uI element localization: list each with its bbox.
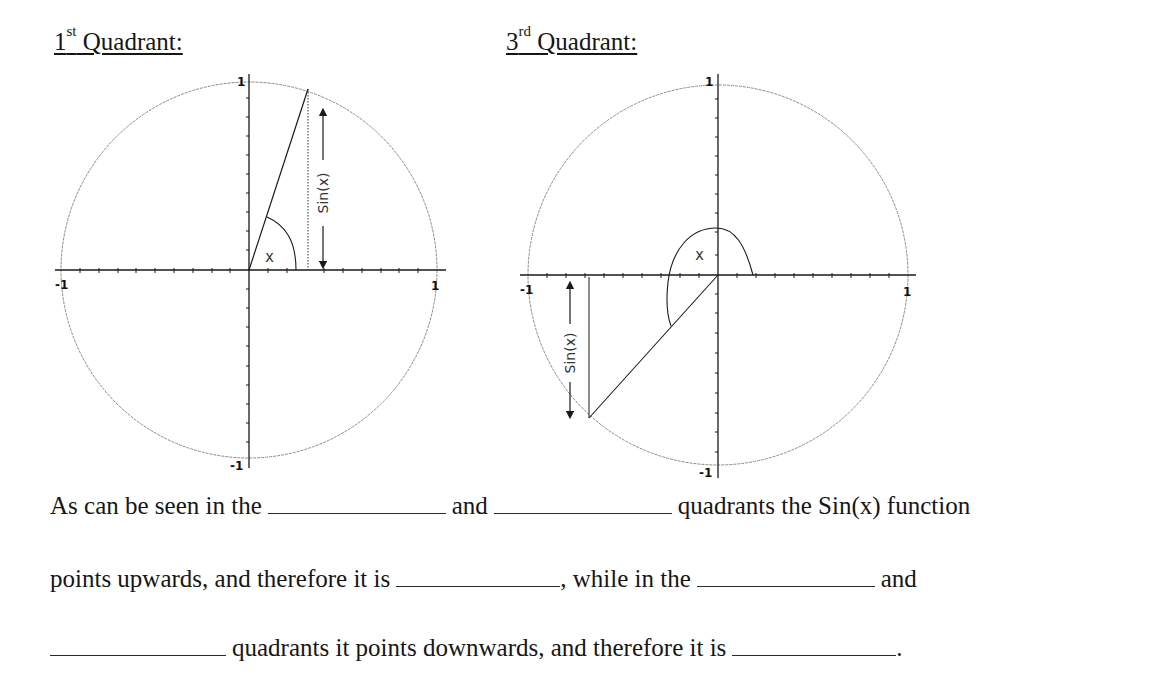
first-quadrant-diagram: 1 -1 -1 1 x Sin(x)	[55, 74, 446, 473]
unit-circle-diagrams: 1 -1 -1 1 x Sin(x)	[0, 0, 1149, 480]
angle-label: x	[265, 248, 274, 266]
angle-label: x	[695, 246, 704, 264]
text-segment: quadrants the Sin(x) function	[678, 492, 970, 519]
text-segment: points upwards, and therefore it is	[50, 565, 390, 592]
text-segment: and	[881, 565, 917, 592]
axis-label-left: -1	[55, 278, 68, 292]
radius-line	[589, 275, 718, 418]
sine-label: Sin(x)	[315, 173, 331, 214]
axis-label-top: 1	[705, 75, 713, 89]
text-segment: and	[452, 492, 488, 519]
sine-label: Sin(x)	[562, 333, 578, 374]
text-segment: quadrants it points downwards, and there…	[232, 634, 726, 661]
blank-quadrant-2[interactable]	[494, 491, 672, 514]
third-quadrant-diagram: 1 -1 -1 1 x Sin(x)	[520, 74, 916, 480]
axis-label-bottom: -1	[699, 466, 712, 480]
radius-line	[249, 89, 308, 270]
paragraph-line-3: quadrants it points downwards, and there…	[50, 632, 903, 664]
axis-label-top: 1	[237, 75, 245, 89]
axis-label-right: 1	[903, 285, 911, 299]
blank-quadrant-3[interactable]	[697, 564, 875, 587]
paragraph-line-2: points upwards, and therefore it is, whi…	[50, 563, 917, 595]
paragraph-line-1: As can be seen in theandquadrants the Si…	[50, 490, 970, 522]
blank-sign-positive[interactable]	[396, 564, 560, 587]
axis-label-bottom: -1	[230, 459, 243, 473]
text-segment: As can be seen in the	[50, 492, 262, 519]
axis-label-left: -1	[520, 283, 533, 297]
text-segment: , while in the	[560, 565, 691, 592]
text-segment: .	[896, 634, 902, 661]
blank-quadrant-4[interactable]	[50, 633, 226, 656]
axis-label-right: 1	[431, 279, 439, 293]
blank-sign-negative[interactable]	[732, 633, 896, 656]
blank-quadrant-1[interactable]	[268, 491, 446, 514]
